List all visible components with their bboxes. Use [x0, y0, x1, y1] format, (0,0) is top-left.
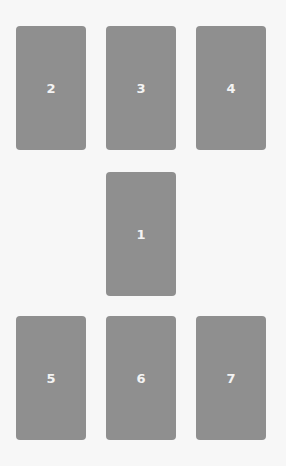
card-slot-5[interactable]: 5	[16, 316, 86, 440]
card-number: 1	[136, 227, 145, 242]
card-number: 6	[136, 371, 145, 386]
card-number: 4	[226, 81, 235, 96]
card-number: 2	[46, 81, 55, 96]
card-slot-6[interactable]: 6	[106, 316, 176, 440]
card-number: 5	[46, 371, 55, 386]
card-slot-2[interactable]: 2	[16, 26, 86, 150]
card-slot-3[interactable]: 3	[106, 26, 176, 150]
card-slot-7[interactable]: 7	[196, 316, 266, 440]
card-number: 3	[136, 81, 145, 96]
card-slot-4[interactable]: 4	[196, 26, 266, 150]
card-slot-1[interactable]: 1	[106, 172, 176, 296]
card-number: 7	[226, 371, 235, 386]
